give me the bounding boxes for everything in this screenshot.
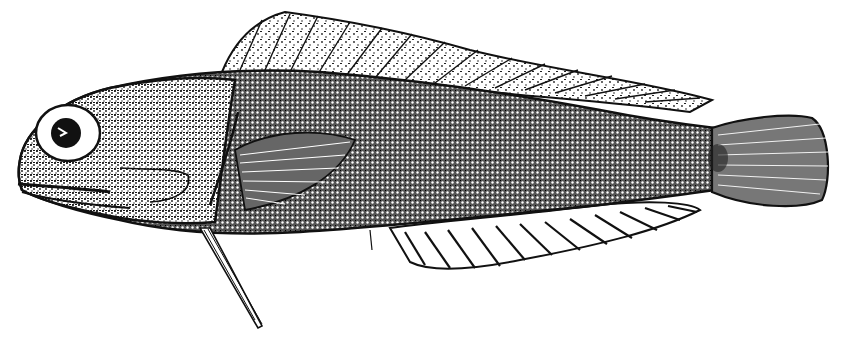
- caudal-fin: [708, 116, 828, 207]
- pelvic-fin: [200, 228, 262, 328]
- eye: [36, 105, 100, 161]
- fish-illustration: [0, 0, 848, 340]
